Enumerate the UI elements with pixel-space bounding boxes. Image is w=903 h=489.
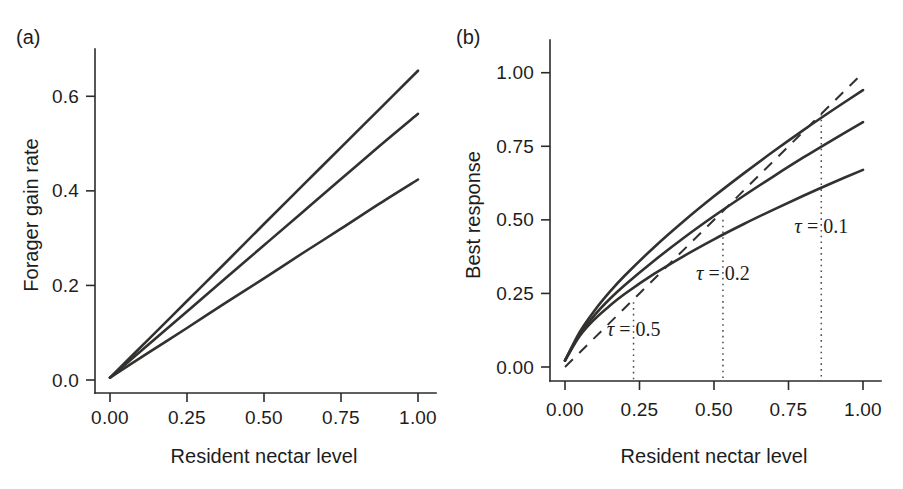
x-tick-label: 0.50 [245, 407, 283, 428]
x-tick-label: 0.75 [322, 407, 360, 428]
series-curve [110, 180, 418, 378]
series-curve [110, 114, 418, 378]
tau-annotation-label: τ = 0.5 [607, 317, 661, 341]
panel-b: 0.000.250.500.751.000.000.250.500.751.00… [452, 0, 903, 489]
y-tick-label: 0.00 [496, 357, 534, 378]
panel-label: (a) [16, 26, 40, 48]
panel-a: 0.000.250.500.751.000.00.20.40.6Resident… [0, 0, 452, 489]
panel-a-plot: 0.000.250.500.751.000.00.20.40.6Resident… [0, 0, 452, 489]
y-axis-title: Forager gain rate [20, 138, 42, 291]
x-tick-label: 1.00 [844, 399, 882, 420]
y-tick-label: 0.50 [496, 209, 534, 230]
x-tick-label: 0.00 [91, 407, 129, 428]
y-tick-label: 0.2 [52, 275, 79, 296]
y-tick-label: 0.25 [496, 283, 534, 304]
x-axis-title: Resident nectar level [621, 445, 808, 467]
y-tick-label: 0.0 [52, 370, 79, 391]
tau-annotation-label: τ = 0.2 [696, 261, 750, 285]
figure-container: 0.000.250.500.751.000.00.20.40.6Resident… [0, 0, 903, 489]
y-axis-title: Best response [462, 151, 484, 279]
panel-b-plot: 0.000.250.500.751.000.000.250.500.751.00… [452, 0, 903, 489]
x-tick-label: 0.75 [770, 399, 808, 420]
x-tick-label: 0.00 [546, 399, 584, 420]
tau-annotation-label: τ = 0.1 [794, 214, 848, 238]
x-tick-label: 1.00 [399, 407, 437, 428]
y-tick-label: 1.00 [496, 62, 534, 83]
y-tick-label: 0.75 [496, 136, 534, 157]
x-tick-label: 0.25 [168, 407, 206, 428]
x-tick-label: 0.50 [695, 399, 733, 420]
y-tick-label: 0.4 [52, 180, 79, 201]
series-curve [110, 71, 418, 378]
x-tick-label: 0.25 [621, 399, 659, 420]
y-tick-label: 0.6 [52, 86, 79, 107]
panel-label: (b) [456, 26, 480, 48]
x-axis-title: Resident nectar level [171, 445, 358, 467]
